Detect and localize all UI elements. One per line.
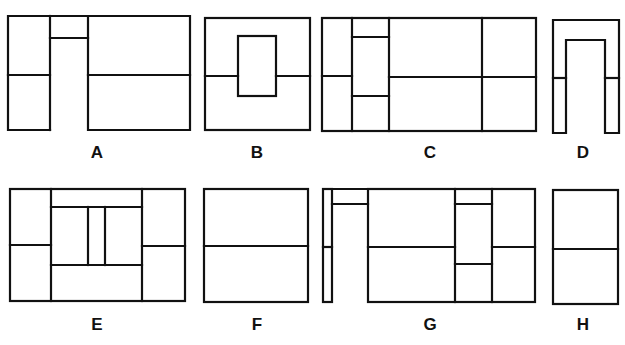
panel-c-drawing <box>322 18 536 131</box>
panel-c-label: C <box>424 143 436 162</box>
figure-canvas: A B C D E F G H <box>0 0 625 345</box>
panel-f-label: F <box>252 315 262 334</box>
panel-d-drawing <box>553 20 619 133</box>
panel-f-drawing <box>204 189 308 302</box>
panel-e-drawing <box>10 189 185 301</box>
panel-e-label: E <box>91 315 102 334</box>
panel-a-drawing <box>8 16 190 130</box>
panel-g-drawing <box>323 189 535 302</box>
panel-h-drawing <box>553 190 618 304</box>
panel-b-drawing <box>205 18 310 130</box>
panel-d-label: D <box>577 143 589 162</box>
panel-a-label: A <box>91 143 103 162</box>
panel-h-label: H <box>577 315 589 334</box>
panel-g-label: G <box>423 315 436 334</box>
panel-b-label: B <box>251 143 263 162</box>
